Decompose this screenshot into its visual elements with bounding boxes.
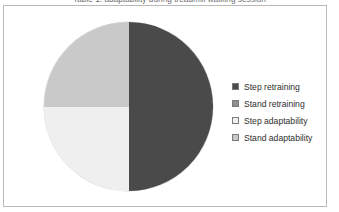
- pie-slice-step-retraining[interactable]: [129, 22, 214, 191]
- legend-swatch-step-adaptability: [232, 117, 239, 124]
- pie-plot-area: [41, 17, 216, 202]
- legend-label-stand-adaptability: Stand adaptability: [244, 133, 312, 143]
- legend-swatch-step-retraining: [232, 83, 239, 90]
- chart-legend: Step retraining Stand retraining Step ad…: [232, 78, 328, 146]
- chart-frame: Step retraining Stand retraining Step ad…: [3, 5, 327, 207]
- pie-slice-step-adaptability[interactable]: [44, 107, 129, 192]
- legend-label-step-retraining: Step retraining: [244, 82, 300, 92]
- legend-label-stand-retraining: Stand retraining: [244, 99, 305, 109]
- pie-chart: [44, 22, 213, 191]
- legend-item-step-retraining[interactable]: Step retraining: [232, 78, 328, 95]
- legend-label-step-adaptability: Step adaptability: [244, 116, 308, 126]
- legend-swatch-stand-adaptability: [232, 134, 239, 141]
- figure-title: Table 1: adaptability during treadmill w…: [0, 0, 339, 4]
- pie-slice-stand-adaptability[interactable]: [44, 22, 129, 107]
- legend-item-stand-adaptability[interactable]: Stand adaptability: [232, 129, 328, 146]
- legend-swatch-stand-retraining: [232, 100, 239, 107]
- legend-item-step-adaptability[interactable]: Step adaptability: [232, 112, 328, 129]
- legend-item-stand-retraining[interactable]: Stand retraining: [232, 95, 328, 112]
